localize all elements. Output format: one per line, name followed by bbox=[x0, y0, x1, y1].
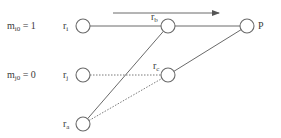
node-ra bbox=[76, 117, 90, 131]
row-label-mj0: mj0 = 0 bbox=[7, 69, 36, 82]
node-ri bbox=[76, 19, 90, 33]
edge-ra-rb bbox=[88, 31, 164, 118]
node-P bbox=[240, 19, 254, 33]
edge-rc-P bbox=[174, 30, 241, 72]
node-label-rc: rc bbox=[153, 60, 159, 73]
labels-layer: rirjrarbrcPmi0 = 1mj0 = 0 bbox=[7, 11, 264, 131]
row-label-mi0: mi0 = 1 bbox=[7, 20, 36, 33]
node-rb bbox=[161, 19, 175, 33]
node-label-ri: ri bbox=[63, 20, 68, 33]
node-rj bbox=[76, 68, 90, 82]
node-rc bbox=[161, 68, 175, 82]
node-label-rj: rj bbox=[63, 69, 68, 82]
edge-ra-rc bbox=[89, 79, 162, 121]
network-diagram: rirjrarbrcPmi0 = 1mj0 = 0 bbox=[0, 0, 281, 138]
node-label-P: P bbox=[258, 20, 264, 31]
node-label-ra: ra bbox=[63, 118, 70, 131]
